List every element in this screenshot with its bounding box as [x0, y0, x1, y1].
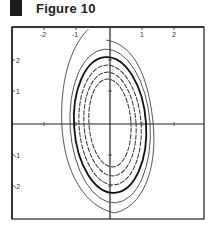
- y-tick-label: -2: [14, 183, 20, 190]
- y-tick-label: 2: [16, 57, 20, 64]
- trajectories: [55, 25, 159, 216]
- x-tick-label: 2: [172, 31, 176, 38]
- x-tick-label: -2: [40, 31, 46, 38]
- plot-frame: [12, 27, 204, 219]
- x-tick-label: -1: [72, 31, 78, 38]
- x-tick-label: 1: [140, 31, 144, 38]
- trajectory-outer: [55, 25, 159, 216]
- y-tick-label: -1: [14, 152, 20, 159]
- phase-plot: -2 -1 1 2 2 1 -1 -2: [0, 0, 214, 226]
- y-tick-label: 1: [16, 88, 20, 95]
